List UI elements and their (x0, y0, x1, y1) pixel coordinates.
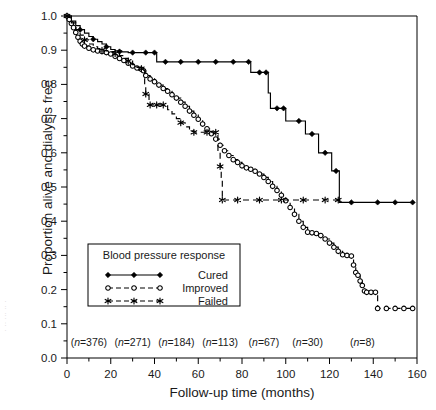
legend-sample-marker (158, 286, 163, 291)
data-point-marker (253, 169, 258, 174)
at-risk-row: (n=376)(n=271)(n=184)(n=113)(n=67)(n=30)… (71, 336, 375, 348)
data-point-marker (157, 83, 162, 88)
data-point-marker (73, 30, 78, 35)
data-point-marker (161, 86, 166, 91)
data-point-marker (375, 200, 380, 205)
y-tick-label: 0.8 (41, 78, 57, 90)
data-point-marker (235, 160, 240, 165)
data-point-marker (340, 252, 345, 257)
data-point-marker (192, 113, 197, 118)
data-point-marker (309, 131, 314, 136)
x-tick-label: 20 (104, 368, 117, 380)
y-tick-label: 0.6 (41, 147, 57, 159)
data-point-marker (257, 70, 262, 75)
x-tick-label: 0 (64, 368, 70, 380)
data-point-marker (143, 91, 149, 97)
data-point-marker (305, 230, 310, 235)
series-line (67, 16, 338, 200)
data-point-marker (392, 200, 397, 205)
y-tick-label: 0.7 (41, 113, 57, 125)
legend-label: Cured (198, 269, 228, 281)
data-point-marker (270, 184, 275, 189)
data-point-marker (358, 279, 363, 284)
data-point-marker (130, 50, 135, 55)
x-tick-label: 160 (407, 368, 426, 380)
data-point-marker (218, 143, 223, 148)
legend-label: Failed (198, 295, 228, 307)
y-axis-ticks: 0.00.10.20.30.40.50.60.70.80.91.0 (41, 10, 67, 364)
data-point-marker (148, 77, 153, 82)
y-tick-label: 1.0 (41, 10, 57, 22)
data-point-marker (410, 200, 415, 205)
legend-sample-marker (106, 286, 111, 291)
at-risk-label: (n=113) (202, 336, 238, 348)
data-point-marker (257, 172, 262, 177)
data-point-marker (187, 109, 192, 114)
data-point-marker (333, 168, 338, 173)
data-point-marker (301, 225, 306, 230)
data-point-marker (351, 263, 356, 268)
legend-sample-marker (132, 286, 137, 291)
at-risk-label: (n=30) (292, 336, 323, 348)
y-tick-label: 0.2 (41, 284, 57, 296)
data-point-marker (196, 117, 201, 122)
x-tick-label: 80 (236, 368, 249, 380)
legend-box: Blood pressure responseCuredImprovedFail… (88, 244, 240, 307)
y-tick-label: 0.5 (41, 181, 57, 193)
data-point-marker (345, 253, 350, 258)
data-point-marker (274, 106, 279, 111)
data-point-marker (213, 137, 218, 142)
y-tick-label: 0.4 (41, 215, 58, 227)
data-point-marker (356, 273, 361, 278)
data-point-marker (170, 92, 175, 97)
series-line (67, 16, 413, 202)
data-point-marker (178, 100, 183, 105)
data-point-marker (393, 306, 398, 311)
data-point-marker (360, 283, 365, 288)
data-point-marker (402, 306, 407, 311)
x-tick-label: 140 (364, 368, 383, 380)
plot-canvas: 020406080100120140160 0.00.10.20.30.40.5… (0, 0, 436, 410)
data-point-marker (200, 122, 205, 127)
data-point-marker (152, 79, 157, 84)
data-point-marker (410, 306, 415, 311)
at-risk-label: (n=184) (158, 336, 195, 348)
plot-frame (67, 16, 417, 358)
data-point-marker (332, 245, 337, 250)
data-point-marker (143, 50, 148, 55)
data-point-marker (227, 153, 232, 158)
data-point-marker (373, 290, 378, 295)
data-point-marker (231, 157, 236, 162)
legend-label: Improved (182, 282, 228, 294)
data-point-marker (349, 200, 354, 205)
data-point-marker (266, 179, 271, 184)
at-risk-label: (n=8) (350, 336, 375, 348)
data-point-marker (349, 254, 354, 259)
at-risk-label: (n=67) (249, 336, 280, 348)
data-point-marker (222, 148, 227, 153)
x-tick-label: 40 (148, 368, 161, 380)
data-point-marker (322, 150, 327, 155)
at-risk-label: (n=271) (114, 336, 151, 348)
y-tick-label: 0.3 (41, 249, 57, 261)
series-failed (64, 13, 341, 203)
data-point-marker (178, 59, 183, 64)
x-tick-label: 120 (320, 368, 339, 380)
y-tick-label: 0.1 (41, 318, 57, 330)
data-point-marker (327, 241, 332, 246)
data-point-marker (91, 48, 96, 53)
data-point-marker (288, 205, 293, 210)
data-point-marker (262, 175, 267, 180)
data-point-marker (296, 118, 301, 123)
data-point-marker (297, 219, 302, 224)
data-point-marker (384, 306, 389, 311)
data-point-marker (231, 59, 236, 64)
at-risk-label: (n=376) (71, 336, 108, 348)
data-point-marker (196, 59, 201, 64)
data-point-marker (323, 237, 328, 242)
series-cured (64, 13, 415, 205)
y-tick-label: 0.9 (41, 44, 57, 56)
x-axis-ticks: 020406080100120140160 (64, 358, 427, 380)
data-point-marker (174, 96, 179, 101)
data-point-marker (213, 59, 218, 64)
